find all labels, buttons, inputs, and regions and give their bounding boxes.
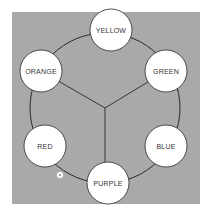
marker-dot-icon [57,172,64,179]
node-label-blue: BLUE [156,143,175,150]
node-label-green: GREEN [153,68,179,75]
node-green: GREEN [145,50,187,92]
node-purple: PURPLE [87,162,129,204]
node-label-yellow: YELLOW [96,27,127,34]
node-label-red: RED [37,143,52,150]
node-red: RED [24,125,66,167]
node-orange: ORANGE [20,50,62,92]
node-blue: BLUE [145,125,187,167]
node-label-orange: ORANGE [25,68,57,75]
node-yellow: YELLOW [90,9,132,51]
color-wheel-diagram: YELLOW GREEN BLUE PURPLE RED ORANGE [0,0,208,211]
node-label-purple: PURPLE [93,180,122,187]
